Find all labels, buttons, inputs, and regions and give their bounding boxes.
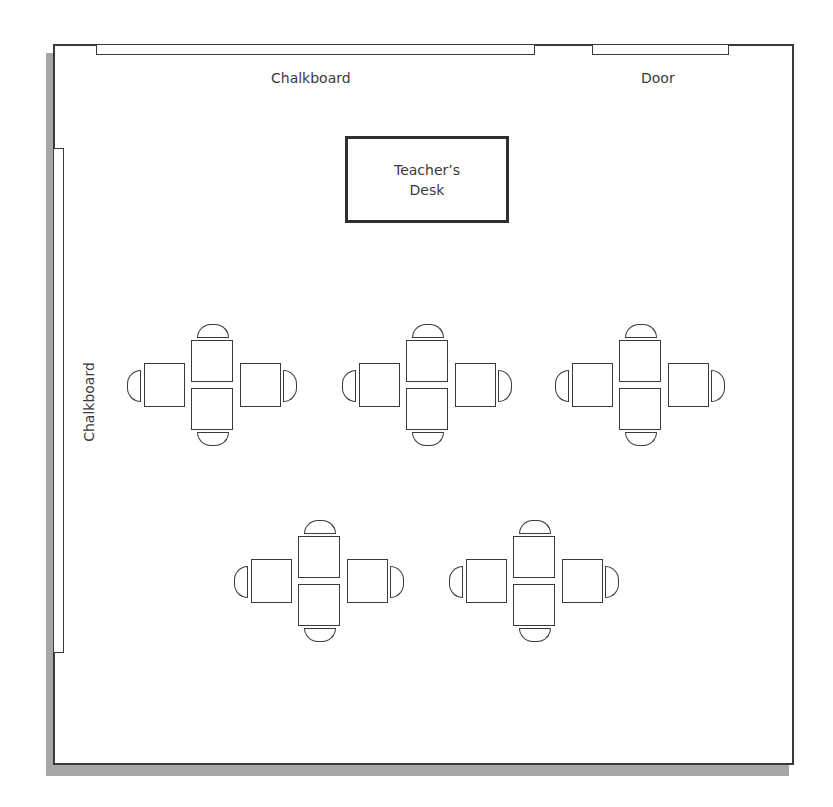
chair-bottom (304, 628, 336, 642)
chair-top (304, 520, 336, 534)
desk-cluster-1 (127, 324, 302, 449)
left-chalkboard-label: Chalkboard (81, 357, 97, 447)
chair-left (342, 370, 356, 402)
teacher-desk-label-line2: Desk (410, 180, 445, 200)
desk-bottom (191, 388, 233, 430)
desk-left (359, 363, 400, 407)
desk-top (406, 340, 448, 382)
desk-left (251, 559, 292, 603)
chair-bottom (197, 432, 229, 446)
desk-left (144, 363, 185, 407)
desk-top (298, 536, 340, 578)
chair-top (625, 324, 657, 338)
chair-right (283, 370, 297, 402)
teacher-desk-label-line1: Teacher’s (394, 160, 460, 180)
desk-right (562, 559, 603, 603)
desk-right (668, 363, 709, 407)
desk-left (466, 559, 507, 603)
top-chalkboard-label: Chalkboard (271, 70, 351, 86)
desk-cluster-4 (234, 520, 409, 645)
desk-cluster-3 (555, 324, 730, 449)
chair-right (605, 566, 619, 598)
chair-right (498, 370, 512, 402)
left-chalkboard (54, 148, 64, 653)
desk-right (240, 363, 281, 407)
chair-left (449, 566, 463, 598)
chair-top (412, 324, 444, 338)
desk-right (455, 363, 496, 407)
chair-right (390, 566, 404, 598)
desk-top (619, 340, 661, 382)
chair-right (711, 370, 725, 402)
desk-bottom (298, 584, 340, 626)
chair-bottom (519, 628, 551, 642)
desk-bottom (406, 388, 448, 430)
door-label: Door (641, 70, 675, 86)
door (592, 45, 729, 55)
desk-left (572, 363, 613, 407)
chair-bottom (412, 432, 444, 446)
chair-left (127, 370, 141, 402)
desk-cluster-2 (342, 324, 517, 449)
chair-left (555, 370, 569, 402)
desk-right (347, 559, 388, 603)
desk-top (513, 536, 555, 578)
desk-top (191, 340, 233, 382)
chair-bottom (625, 432, 657, 446)
desk-bottom (619, 388, 661, 430)
top-chalkboard (96, 45, 535, 55)
chair-top (519, 520, 551, 534)
chair-left (234, 566, 248, 598)
desk-bottom (513, 584, 555, 626)
chair-top (197, 324, 229, 338)
teacher-desk: Teacher’s Desk (345, 136, 509, 223)
desk-cluster-5 (449, 520, 624, 645)
